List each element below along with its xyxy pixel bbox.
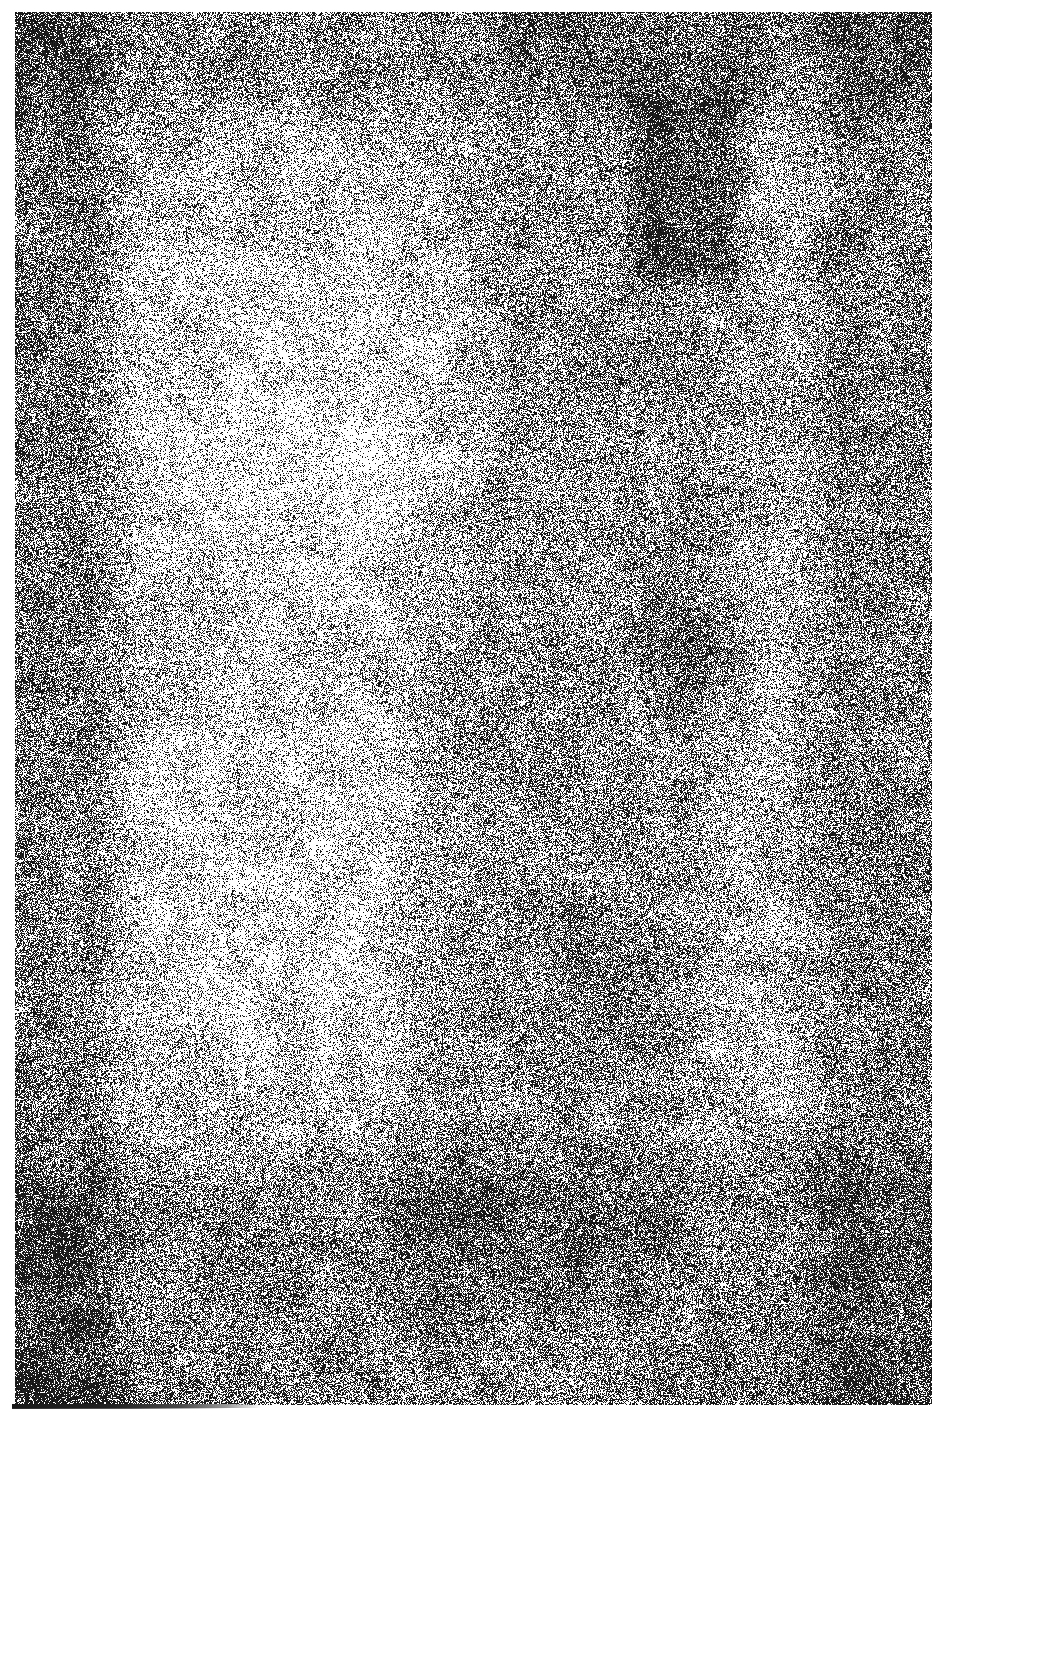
scanned-document-page: [illegible] [illegible] bbox=[0, 0, 1037, 1671]
halftone-noise-canvas bbox=[15, 12, 932, 1405]
bottom-margin: [illegible] bbox=[0, 1412, 1037, 1671]
footer-rule-tail bbox=[12, 1408, 230, 1409]
scan-noise-field: [illegible] bbox=[15, 12, 932, 1405]
